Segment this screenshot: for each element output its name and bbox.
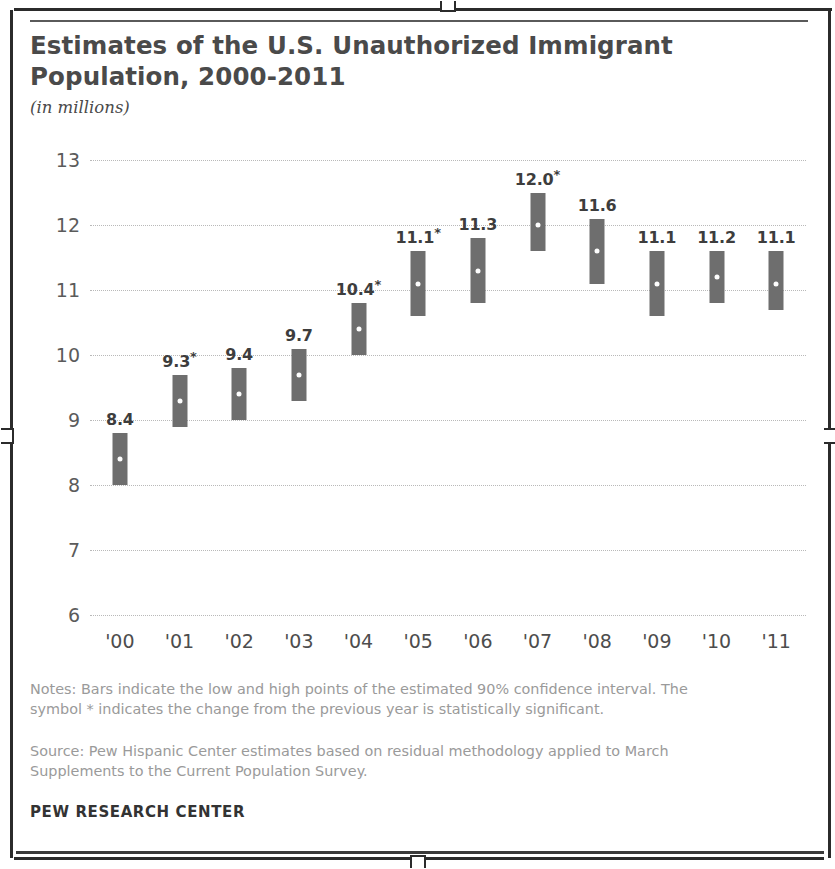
chart-footer: Notes: Bars indicate the low and high po… [30, 679, 730, 821]
bar-value-label: 11.3 [458, 215, 497, 234]
bar-value-label: 10.4* [336, 277, 381, 299]
estimate-marker [714, 275, 719, 280]
estimate-marker [296, 372, 301, 377]
x-axis-tick-label: '06 [463, 630, 492, 652]
chart-header: Estimates of the U.S. Unauthorized Immig… [30, 30, 800, 117]
gridline [90, 485, 806, 486]
estimate-marker [535, 223, 540, 228]
estimate-marker [654, 281, 659, 286]
significance-asterisk: * [554, 166, 561, 181]
scanned-page: Estimates of the U.S. Unauthorized Immig… [0, 0, 835, 869]
y-axis-tick-label: 7 [20, 539, 80, 561]
x-axis-tick-label: '03 [284, 630, 313, 652]
gridline [90, 225, 806, 226]
bar-value-label: 11.1 [757, 228, 796, 247]
crop-mark-left-icon [1, 428, 14, 444]
significance-asterisk: * [375, 277, 382, 292]
estimate-marker [595, 249, 600, 254]
bar-value-label: 8.4 [106, 410, 134, 429]
chart-subtitle: (in millions) [30, 98, 800, 117]
estimate-marker [177, 398, 182, 403]
gridline [90, 355, 806, 356]
x-axis-tick-label: '01 [165, 630, 194, 652]
x-axis-tick-label: '05 [403, 630, 432, 652]
estimate-marker [475, 268, 480, 273]
y-axis-tick-label: 12 [20, 214, 80, 236]
x-axis-tick-label: '07 [523, 630, 552, 652]
gridline [90, 420, 806, 421]
estimate-marker [237, 392, 242, 397]
significance-asterisk: * [434, 225, 441, 240]
x-axis-tick-label: '09 [642, 630, 671, 652]
bar-value-label: 9.4 [225, 345, 253, 364]
estimate-marker [356, 327, 361, 332]
y-axis-tick-label: 9 [20, 409, 80, 431]
crop-mark-bottom-icon [410, 855, 426, 868]
crop-rule-top [14, 8, 832, 11]
gridline [90, 160, 806, 161]
x-axis-tick-label: '08 [582, 630, 611, 652]
bar-value-label: 11.1 [637, 228, 676, 247]
x-axis-tick-label: '04 [344, 630, 373, 652]
x-axis-tick-label: '02 [224, 630, 253, 652]
estimate-marker [774, 281, 779, 286]
bar-value-label: 12.0* [515, 166, 560, 188]
gridline [90, 290, 806, 291]
chart-plot-area: 131211109876 8.49.3*9.49.710.4*11.1*11.3… [90, 160, 806, 615]
gridline [90, 550, 806, 551]
crop-mark-top-icon [440, 1, 456, 12]
estimate-marker [416, 281, 421, 286]
bar-value-label: 11.2 [697, 228, 736, 247]
x-axis-tick-label: '10 [702, 630, 731, 652]
chart-card: Estimates of the U.S. Unauthorized Immig… [16, 13, 824, 855]
bar-value-label: 11.6 [578, 196, 617, 215]
bar-value-label: 9.7 [285, 326, 313, 345]
y-axis-tick-label: 10 [20, 344, 80, 366]
x-axis-tick-label: '11 [761, 630, 790, 652]
page-title: Estimates of the U.S. Unauthorized Immig… [30, 30, 800, 92]
y-axis-tick-label: 11 [20, 279, 80, 301]
y-axis-tick-label: 8 [20, 474, 80, 496]
x-axis-tick-label: '00 [105, 630, 134, 652]
chart-source: Source: Pew Hispanic Center estimates ba… [30, 741, 730, 781]
footer-rule [16, 851, 824, 854]
gridline [90, 615, 806, 616]
y-axis-tick-label: 13 [20, 149, 80, 171]
significance-asterisk: * [190, 348, 197, 363]
bar-value-label: 9.3* [162, 348, 196, 370]
header-rule [30, 20, 808, 22]
estimate-marker [117, 457, 122, 462]
bar-value-label: 11.1* [396, 225, 441, 247]
chart-notes: Notes: Bars indicate the low and high po… [30, 679, 730, 719]
y-axis-tick-label: 6 [20, 604, 80, 626]
chart-plot-wrapper: 131211109876 8.49.3*9.49.710.4*11.1*11.3… [16, 148, 824, 658]
brand-label: PEW RESEARCH CENTER [30, 803, 730, 821]
